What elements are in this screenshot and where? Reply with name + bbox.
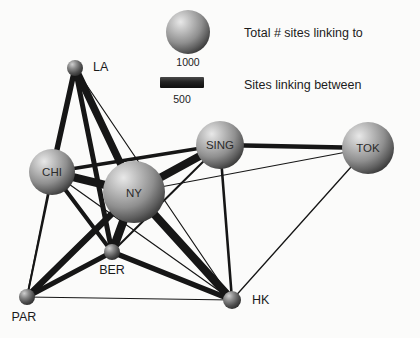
node-label-tok: TOK (356, 142, 380, 154)
node-sphere-icon (104, 244, 120, 260)
node-hk[interactable] (223, 291, 241, 309)
edges-layer (27, 68, 368, 300)
node-label-par: PAR (12, 310, 37, 324)
node-sphere-icon (223, 291, 241, 309)
legend-bar-icon (160, 77, 204, 88)
legend-node-label: Total # sites linking to (244, 26, 363, 40)
node-label-ber: BER (99, 263, 125, 277)
legend-sphere-icon (166, 10, 210, 54)
edge-tok-hk (232, 148, 368, 300)
node-sphere-icon (67, 60, 83, 76)
node-la[interactable] (67, 60, 83, 76)
node-par[interactable] (19, 289, 35, 305)
node-label-ny: NY (126, 187, 142, 199)
node-label-sing: SING (206, 139, 234, 151)
network-graph: LACHINYSINGTOKBERPARHK 1000 Total # site… (0, 0, 420, 338)
legend-edge-label: Sites linking between (244, 78, 361, 92)
edge-par-hk (27, 297, 232, 300)
network-diagram-page: LACHINYSINGTOKBERPARHK 1000 Total # site… (0, 0, 420, 338)
node-label-chi: CHI (42, 166, 62, 178)
legend-node-value: 1000 (176, 56, 200, 68)
legend-edge-value: 500 (173, 93, 191, 105)
node-label-la: LA (93, 60, 109, 74)
node-sphere-icon (19, 289, 35, 305)
node-label-hk: HK (252, 293, 270, 307)
node-ber[interactable] (104, 244, 120, 260)
legend: 1000 Total # sites linking to 500 Sites … (160, 10, 363, 105)
